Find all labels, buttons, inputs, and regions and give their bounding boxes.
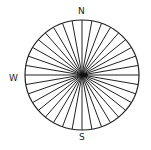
south-label: S [79, 133, 85, 142]
west-label: W [9, 74, 18, 83]
north-label: N [78, 7, 85, 16]
compass-rose [0, 0, 151, 150]
center-hub [80, 73, 88, 77]
